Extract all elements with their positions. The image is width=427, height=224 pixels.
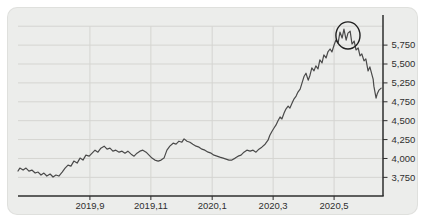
y-tick-label: 3,750 <box>392 172 416 183</box>
x-tick-label: 2020,1 <box>198 200 227 211</box>
price-line-chart: 2019,92019,112020,12020,32020,55,7505,50… <box>0 0 427 224</box>
x-tick-label: 2020,3 <box>259 200 288 211</box>
price-line <box>18 29 381 177</box>
y-tick-label: 5,250 <box>392 77 416 88</box>
y-tick-label: 5,750 <box>392 39 416 50</box>
y-tick-label: 4,000 <box>392 153 416 164</box>
x-tick-label: 2020,5 <box>320 200 349 211</box>
y-tick-label: 5,500 <box>392 58 416 69</box>
y-tick-label: 4,500 <box>392 115 416 126</box>
x-tick-label: 2019,9 <box>75 200 104 211</box>
x-tick-label: 2019,11 <box>134 200 168 211</box>
y-tick-label: 4,250 <box>392 134 416 145</box>
y-tick-label: 4,750 <box>392 96 416 107</box>
screenshot-canvas: 2019,92019,112020,12020,32020,55,7505,50… <box>0 0 427 224</box>
